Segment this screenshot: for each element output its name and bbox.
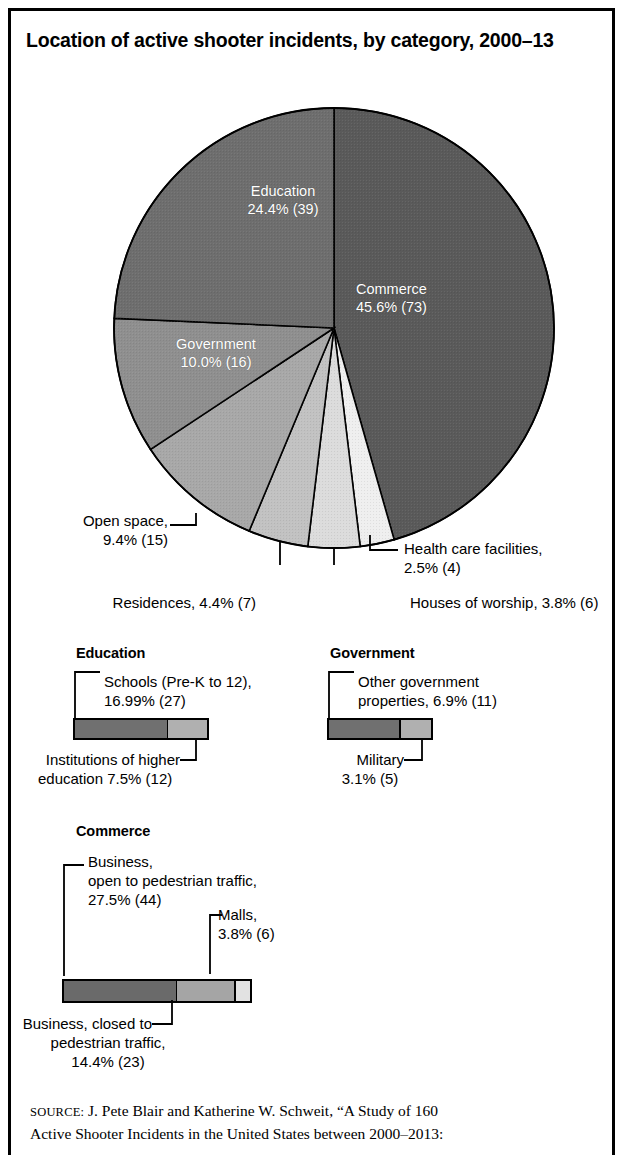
pie-callout-residences: Residences, 4.4% (7) — [0, 593, 256, 612]
government-top-note-line1: Other government — [358, 672, 608, 691]
commerce-malls-line1: Malls, — [218, 905, 378, 924]
source-label: SOURCE: — [30, 1105, 84, 1119]
source-note: SOURCE: J. Pete Blair and Katherine W. S… — [30, 1100, 600, 1144]
figure-container: Location of active shooter incidents, by… — [0, 0, 623, 1155]
pie-label-commerce-value: 45.6% (73) — [356, 298, 506, 316]
commerce-malls-leader — [208, 910, 232, 980]
pie-label-government-name: Government — [146, 335, 286, 353]
commerce-bar-divider-2 — [234, 981, 236, 1001]
pie-callout-health-care-line2: 2.5% (4) — [404, 558, 623, 577]
figure-border-right — [612, 8, 615, 1155]
education-top-note: Schools (Pre-K to 12), 16.99% (27) — [104, 672, 344, 710]
education-bottom-note2: education 7.5% (12) — [38, 769, 298, 788]
commerce-bottom-note2: pedestrian traffic, — [28, 1033, 188, 1052]
commerce-bar-segment-malls — [234, 981, 250, 1001]
pie-label-commerce: Commerce 45.6% (73) — [356, 280, 506, 316]
figure-border-left — [8, 8, 11, 1155]
commerce-bottom-note-line1: Business, closed to — [0, 1014, 152, 1033]
pie-label-government: Government 10.0% (16) — [146, 335, 286, 371]
leader-residences — [260, 541, 280, 565]
government-top-note-line2: properties, 6.9% (11) — [358, 691, 608, 710]
commerce-panel-title: Commerce — [76, 823, 150, 839]
education-bar-segment-schools — [75, 720, 167, 738]
pie-label-government-value: 10.0% (16) — [146, 353, 286, 371]
commerce-malls-line2: 3.8% (6) — [218, 924, 378, 943]
commerce-top-leader — [58, 862, 98, 984]
pie-callout-health-care-line1: Health care facilities, — [404, 539, 623, 558]
government-bottom-note-line2: 3.1% (5) — [300, 769, 440, 788]
education-bottom-leader — [180, 736, 220, 770]
pie-label-commerce-name: Commerce — [356, 280, 506, 298]
pie-callout-houses-line1: Houses of worship, 3.8% (6) — [410, 593, 623, 612]
source-line2: Active Shooter Incidents in the United S… — [30, 1125, 443, 1142]
pie-callout-open-space-line1: Open space, — [0, 511, 168, 530]
pie-callout-houses-of-worship: Houses of worship, 3.8% (6) — [410, 593, 623, 612]
pie-callout-open-space-line2: 9.4% (15) — [0, 530, 168, 549]
pie-label-education: Education 24.4% (39) — [208, 182, 358, 218]
leader-open-space — [170, 513, 196, 525]
government-bar-divider — [399, 720, 401, 738]
education-top-note-line2: 16.99% (27) — [104, 691, 344, 710]
commerce-bottom-note: Business, closed to — [0, 1014, 152, 1033]
source-line1: J. Pete Blair and Katherine W. Schweit, … — [84, 1102, 438, 1119]
government-top-note: Other government properties, 6.9% (11) — [358, 672, 608, 710]
pie-callout-health-care: Health care facilities, 2.5% (4) — [404, 539, 623, 577]
education-top-note-line1: Schools (Pre-K to 12), — [104, 672, 344, 691]
pie-label-education-name: Education — [208, 182, 358, 200]
commerce-top-note-line1: Business, — [88, 852, 388, 871]
commerce-bottom-note3: 14.4% (23) — [28, 1052, 188, 1071]
commerce-bottom-note-line3: 14.4% (23) — [28, 1052, 188, 1071]
pie-chart: Education 24.4% (39) Commerce 45.6% (73)… — [108, 95, 563, 565]
education-panel-title: Education — [76, 645, 145, 661]
figure-border-top — [8, 8, 615, 11]
commerce-bottom-leader — [150, 998, 190, 1034]
government-bottom-note-line1: Military — [240, 750, 404, 769]
education-bar-divider — [167, 720, 169, 738]
commerce-malls-note: Malls, 3.8% (6) — [218, 905, 378, 943]
government-bottom-note2: 3.1% (5) — [300, 769, 440, 788]
education-bottom-note-line1: Institutions of higher — [0, 750, 180, 769]
education-bottom-note-line2: education 7.5% (12) — [38, 769, 298, 788]
government-bottom-leader — [404, 736, 444, 770]
commerce-top-note: Business, open to pedestrian traffic, 27… — [88, 852, 388, 909]
commerce-bottom-note-line2: pedestrian traffic, — [28, 1033, 188, 1052]
pie-label-education-value: 24.4% (39) — [208, 200, 358, 218]
pie-callout-residences-line1: Residences, 4.4% (7) — [0, 593, 256, 612]
pie-callout-open-space: Open space, 9.4% (15) — [0, 511, 168, 549]
page-title: Location of active shooter incidents, by… — [26, 28, 596, 52]
commerce-top-note-line2: open to pedestrian traffic, — [88, 871, 388, 890]
education-bottom-note: Institutions of higher — [0, 750, 180, 769]
leader-health-care — [370, 535, 398, 550]
pie-leader-lines — [108, 95, 563, 565]
government-bottom-note: Military — [240, 750, 404, 769]
government-bar-segment-other-government — [329, 720, 399, 738]
government-panel-title: Government — [330, 645, 414, 661]
